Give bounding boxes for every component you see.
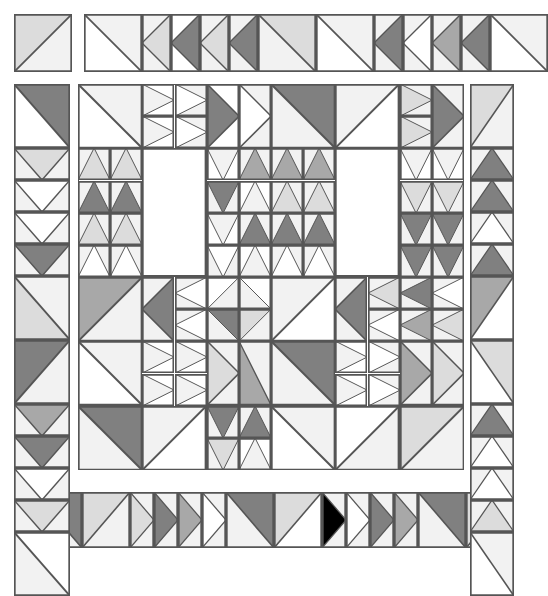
center-patch-11 [432, 84, 464, 148]
right-strip-patch-0 [470, 84, 514, 148]
left-strip-patch-1 [14, 148, 70, 180]
bottom-strip-patch-8 [322, 492, 346, 548]
center-patch-84 [335, 406, 399, 470]
center-patch-73 [368, 341, 400, 373]
center-patch-33 [271, 213, 303, 245]
bottom-strip-patch-9 [346, 492, 370, 548]
center-patch-26 [239, 181, 271, 213]
center-patch-0 [78, 84, 142, 148]
center-patch-12 [78, 148, 110, 180]
center-patch-22 [207, 181, 239, 213]
center-patch-24 [207, 245, 239, 277]
bottom-strip-patch-10 [370, 492, 394, 548]
center-patch-36 [303, 245, 335, 277]
corner-top-left [14, 14, 72, 72]
center-patch-83 [271, 406, 335, 470]
bottom-strip-patch-2 [130, 492, 154, 548]
left-strip-patch-0 [14, 84, 70, 148]
center-overlay-patch-0 [207, 277, 239, 309]
right-strip-patch-2 [470, 180, 514, 212]
top-strip-patch-5 [258, 14, 316, 72]
top-strip-patch-4 [229, 14, 258, 72]
bottom-strip-patch-12 [418, 492, 466, 548]
center-patch-77 [78, 406, 142, 470]
top-strip-patch-10 [461, 14, 490, 72]
center-overlay-patch-4 [207, 406, 239, 438]
center-patch-23 [207, 213, 239, 245]
center-patch-78 [142, 406, 206, 470]
center-patch-28 [239, 245, 271, 277]
center-patch-40 [400, 181, 432, 213]
center-patch-34 [303, 213, 335, 245]
top-strip-patch-2 [171, 14, 200, 72]
right-strip-patch-4 [470, 244, 514, 276]
center-overlay-patch-3 [239, 309, 271, 341]
center-patch-15 [110, 181, 142, 213]
center-patch-64 [142, 341, 174, 373]
center-patch-8 [335, 84, 399, 148]
center-patch-17 [110, 213, 142, 245]
center-patch-58 [400, 277, 432, 309]
bottom-strip-patch-11 [394, 492, 418, 548]
center-overlay-patch-1 [239, 277, 271, 309]
right-strip-patch-3 [470, 212, 514, 244]
center-patch-57 [368, 309, 400, 341]
bottom-strip-patch-7 [274, 492, 322, 548]
center-patch-45 [432, 245, 464, 277]
top-strip-patch-9 [432, 14, 461, 72]
center-patch-37 [335, 148, 399, 277]
center-patch-19 [110, 245, 142, 277]
center-patch-5 [207, 84, 239, 148]
center-patch-85 [400, 406, 464, 470]
center-patch-80 [207, 438, 239, 470]
center-patch-54 [271, 277, 335, 341]
right-strip-patch-7 [470, 404, 514, 436]
center-patch-2 [142, 116, 174, 148]
center-patch-65 [142, 374, 174, 406]
top-strip-patch-8 [403, 14, 432, 72]
center-patch-70 [271, 341, 335, 405]
center-patch-31 [271, 181, 303, 213]
right-strip-patch-10 [470, 500, 514, 532]
center-patch-60 [432, 277, 464, 309]
center-patch-35 [271, 245, 303, 277]
left-strip-patch-2 [14, 180, 70, 212]
center-patch-41 [432, 181, 464, 213]
center-patch-42 [400, 213, 432, 245]
left-strip-patch-5 [14, 276, 70, 340]
right-strip-patch-9 [470, 468, 514, 500]
top-strip-patch-1 [142, 14, 171, 72]
bottom-strip-patch-3 [154, 492, 178, 548]
center-patch-16 [78, 213, 110, 245]
center-patch-9 [400, 84, 432, 116]
center-patch-13 [110, 148, 142, 180]
center-patch-49 [175, 309, 207, 341]
left-strip-patch-3 [14, 212, 70, 244]
center-patch-69 [239, 341, 271, 405]
top-strip-patch-6 [316, 14, 374, 72]
top-strip-patch-11 [490, 14, 548, 72]
center-patch-20 [142, 148, 206, 277]
right-strip-patch-8 [470, 436, 514, 468]
center-patch-56 [368, 277, 400, 309]
right-strip-patch-5 [470, 276, 514, 340]
center-patch-7 [271, 84, 335, 148]
center-patch-39 [432, 148, 464, 180]
center-patch-4 [175, 116, 207, 148]
center-patch-76 [432, 341, 464, 405]
center-patch-72 [335, 374, 367, 406]
right-strip-patch-1 [470, 148, 514, 180]
bottom-strip-patch-1 [82, 492, 130, 548]
center-patch-29 [271, 148, 303, 180]
center-patch-43 [432, 213, 464, 245]
center-patch-10 [400, 116, 432, 148]
bottom-strip-patch-4 [178, 492, 202, 548]
center-patch-55 [335, 277, 367, 341]
center-patch-48 [175, 277, 207, 309]
center-patch-32 [303, 181, 335, 213]
left-strip-patch-7 [14, 404, 70, 436]
center-patch-21 [207, 148, 239, 180]
center-patch-63 [78, 341, 142, 405]
center-patch-25 [239, 148, 271, 180]
